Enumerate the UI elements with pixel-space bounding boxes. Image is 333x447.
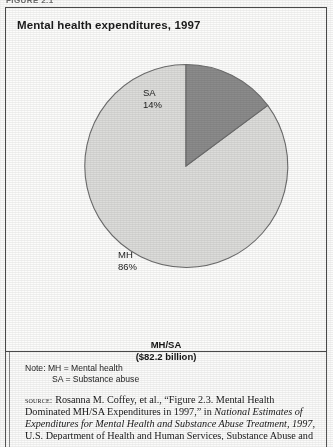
cut-off-figure-header: FIGURE 2.1 bbox=[6, 0, 156, 5]
source-line-1-text: Rosanna M. Coffey, et al., “Figure 2.3. … bbox=[53, 394, 275, 405]
figure-notes: Note: MH = Mental health SA = Substance … bbox=[25, 363, 139, 385]
document-page: FIGURE 2.1 Mental health expenditures, 1… bbox=[0, 0, 333, 447]
page-rule-left-outer bbox=[5, 352, 6, 447]
source-line-2-roman: Dominated MH/SA Expenditures in 1997,” i… bbox=[25, 406, 214, 417]
source-label: source: bbox=[25, 395, 53, 405]
pie-slice-label-mh: MH 86% bbox=[118, 249, 137, 272]
pie-slice-label-sa-percent: 14% bbox=[143, 99, 162, 110]
pie-chart-svg bbox=[80, 60, 292, 272]
figure-title: Mental health expenditures, 1997 bbox=[17, 19, 200, 31]
source-line-2: Dominated MH/SA Expenditures in 1997,” i… bbox=[25, 406, 325, 418]
pie-caption: MH/SA ($82.2 billion) bbox=[6, 339, 326, 362]
pie-caption-title: MH/SA bbox=[151, 339, 182, 350]
source-line-4: U.S. Department of Health and Human Serv… bbox=[25, 430, 325, 440]
source-line-1: source: Rosanna M. Coffey, et al., “Figu… bbox=[25, 394, 325, 406]
pie-slice-label-mh-percent: 86% bbox=[118, 261, 137, 272]
pie-slice-label-sa-name: SA bbox=[143, 87, 156, 98]
figure-note-line-1: Note: MH = Mental health bbox=[25, 363, 123, 373]
figure-note-line-2: SA = Substance abuse bbox=[25, 374, 139, 385]
pie-caption-amount: ($82.2 billion) bbox=[6, 351, 326, 363]
cut-off-figure-header-text: FIGURE 2.1 bbox=[6, 0, 156, 5]
source-line-2-italic: National Estimates of bbox=[214, 406, 302, 417]
source-line-3-italic: Expenditures for Mental Health and Subst… bbox=[25, 418, 315, 429]
pie-slice-label-mh-name: MH bbox=[118, 249, 133, 260]
source-citation: source: Rosanna M. Coffey, et al., “Figu… bbox=[25, 394, 325, 440]
page-rule-right bbox=[326, 352, 327, 447]
source-line-3: Expenditures for Mental Health and Subst… bbox=[25, 418, 325, 430]
figure-frame: Mental health expenditures, 1997 SA 14% … bbox=[5, 7, 327, 352]
page-rule-left-inner bbox=[9, 352, 10, 447]
pie-chart bbox=[80, 60, 292, 272]
pie-slice-label-sa: SA 14% bbox=[143, 87, 162, 110]
